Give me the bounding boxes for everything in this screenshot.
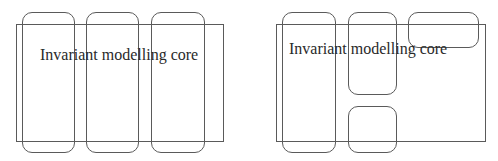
architecture-comparison-diagram: Invariant modelling core Invariant model… xyxy=(0,0,498,161)
left-module-2 xyxy=(86,12,139,153)
right-module-tall xyxy=(282,12,336,153)
left-core-label: Invariant modelling core xyxy=(40,47,198,63)
right-core-label: Invariant modelling core xyxy=(289,41,447,57)
left-module-1 xyxy=(22,12,75,153)
right-module-middle-bottom xyxy=(348,106,397,153)
left-module-3 xyxy=(151,12,205,153)
